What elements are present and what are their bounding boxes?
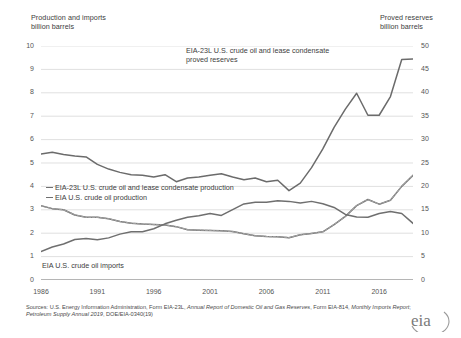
left-tick-9: 9: [20, 65, 34, 72]
eia-logo: eia: [410, 306, 452, 332]
annotation-production-lease-condensate: EIA-23L U.S. crude oil and lease condens…: [46, 183, 234, 192]
legend-dash-icon: [46, 197, 53, 198]
source-suffix: , DOE/EIA-0340(19): [103, 311, 153, 317]
left-tick-2: 2: [20, 229, 34, 236]
right-tick-10: 10: [421, 229, 435, 236]
source-italic-1: Annual Report of Domestic Oil and Gas Re…: [187, 304, 310, 310]
gridlines: [41, 46, 413, 257]
left-tick-6: 6: [20, 135, 34, 142]
source-mid: , Form EIA-814,: [310, 304, 351, 310]
legend-dash-icon: [46, 187, 53, 188]
left-tick-8: 8: [20, 88, 34, 95]
left-tick-0: 0: [20, 276, 34, 283]
series-line-crude-imports: [41, 201, 413, 252]
series-line-proved-reserves: [41, 59, 413, 191]
left-tick-4: 4: [20, 182, 34, 189]
left-axis-title: Production and imports billion barrels: [31, 13, 106, 31]
x-tick-2016: 2016: [371, 288, 387, 295]
source-italic-2: Monthly Imports Report: [351, 304, 409, 310]
left-tick-10: 10: [20, 42, 34, 49]
source-prefix: Sources: U.S. Energy Information Adminis…: [26, 304, 187, 310]
right-tick-20: 20: [421, 182, 435, 189]
right-tick-25: 25: [421, 159, 435, 166]
right-tick-5: 5: [421, 252, 435, 259]
x-tick-2006: 2006: [259, 288, 275, 295]
right-tick-45: 45: [421, 65, 435, 72]
right-axis-title: Proved reserves billion barrels: [380, 13, 433, 31]
x-tick-1991: 1991: [90, 288, 106, 295]
svg-text:eia: eia: [411, 311, 431, 330]
left-tick-7: 7: [20, 112, 34, 119]
annotation-crude-production-label: EIA U.S. crude oil production: [55, 193, 147, 202]
source-note: Sources: U.S. Energy Information Adminis…: [26, 304, 421, 318]
x-tick-1996: 1996: [146, 288, 162, 295]
x-tick-2001: 2001: [202, 288, 218, 295]
left-tick-5: 5: [20, 159, 34, 166]
right-tick-0: 0: [421, 276, 435, 283]
annotation-proved-reserves: EIA-23L U.S. crude oil and lease condens…: [186, 46, 329, 65]
right-tick-50: 50: [421, 42, 435, 49]
source-italic-3: Petroleum Supply Annual 2019: [26, 311, 103, 317]
left-tick-1: 1: [20, 252, 34, 259]
right-tick-30: 30: [421, 135, 435, 142]
right-tick-40: 40: [421, 88, 435, 95]
x-tick-1986: 1986: [33, 288, 49, 295]
right-tick-15: 15: [421, 205, 435, 212]
annotation-crude-imports: EIA U.S. crude oil imports: [42, 261, 124, 270]
left-tick-3: 3: [20, 205, 34, 212]
annotation-production-lease-condensate-label: EIA-23L U.S. crude oil and lease condens…: [55, 183, 234, 192]
x-tick-2011: 2011: [315, 288, 330, 295]
right-tick-35: 35: [421, 112, 435, 119]
annotation-crude-production: EIA U.S. crude oil production: [46, 193, 147, 202]
plot-area: [41, 46, 413, 280]
chart-container: Production and imports billion barrels P…: [0, 0, 461, 338]
